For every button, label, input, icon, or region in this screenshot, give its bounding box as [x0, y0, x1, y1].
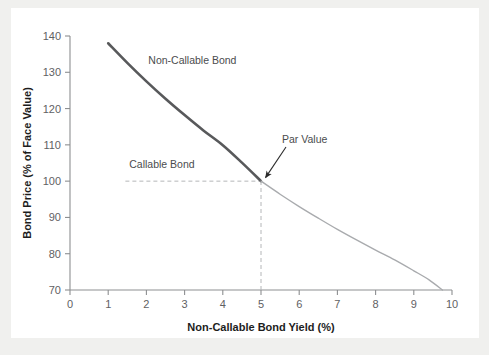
y-axis-title: Bond Price (% of Face Value) — [21, 87, 33, 239]
reference-lines-group — [125, 181, 261, 290]
x-tick-label: 8 — [373, 298, 379, 310]
x-tick-labels: 012345678910 — [67, 298, 458, 310]
y-tick-label: 110 — [43, 139, 61, 151]
x-axis-group: 012345678910 Non-Callable Bond Yield (%) — [67, 290, 458, 333]
y-tick-label: 90 — [49, 211, 61, 223]
chart-svg: 708090100110120130140 Bond Price (% of F… — [0, 0, 489, 355]
callable-bond-label: Callable Bond — [129, 158, 195, 170]
x-tick-label: 9 — [411, 298, 417, 310]
x-tick-label: 2 — [143, 298, 149, 310]
x-tick-label: 0 — [67, 298, 73, 310]
x-tick-label: 10 — [446, 298, 458, 310]
y-tick-labels: 708090100110120130140 — [43, 30, 61, 296]
non-callable-bond-label: Non-Callable Bond — [148, 54, 236, 66]
y-tick-label: 130 — [43, 66, 61, 78]
x-tick-label: 3 — [182, 298, 188, 310]
y-tick-label: 140 — [43, 30, 61, 42]
x-tick-marks — [70, 290, 452, 295]
y-tick-marks — [65, 36, 70, 290]
par-value-label-arrow — [266, 147, 287, 178]
x-tick-label: 7 — [334, 298, 340, 310]
figure-container: 708090100110120130140 Bond Price (% of F… — [0, 0, 489, 355]
y-axis-group: 708090100110120130140 Bond Price (% of F… — [21, 30, 70, 296]
x-tick-label: 5 — [258, 298, 264, 310]
x-tick-label: 1 — [105, 298, 111, 310]
x-tick-label: 6 — [296, 298, 302, 310]
y-tick-label: 70 — [49, 284, 61, 296]
annotations-group: Non-Callable BondCallable BondPar Value — [129, 54, 327, 178]
y-tick-label: 120 — [43, 103, 61, 115]
y-tick-label: 80 — [49, 248, 61, 260]
y-tick-label: 100 — [43, 175, 61, 187]
par-value-label: Par Value — [282, 133, 327, 145]
x-tick-label: 4 — [220, 298, 226, 310]
series-line-callable-bond — [261, 181, 442, 290]
x-axis-title: Non-Callable Bond Yield (%) — [187, 321, 335, 333]
